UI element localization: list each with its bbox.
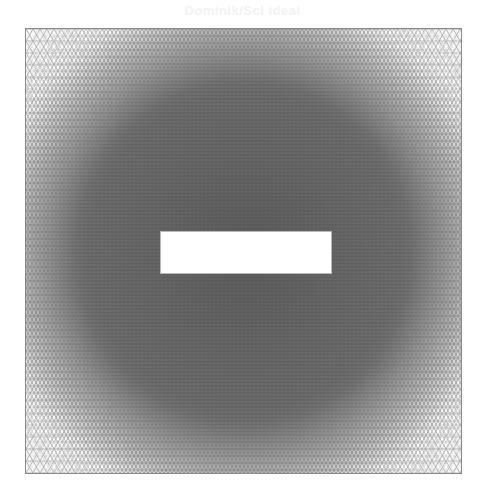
rectangular-hole (160, 231, 332, 274)
ghost-title: Dominik/Scl ideal (0, 3, 485, 18)
triangular-mesh (25, 28, 462, 474)
